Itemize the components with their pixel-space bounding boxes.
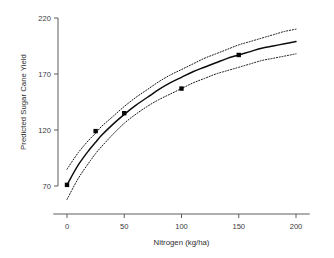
x-axis: 050100150200 (53, 214, 309, 231)
confidence-band-curve (67, 54, 296, 200)
y-tick-label: 170 (38, 70, 51, 79)
series-group (67, 29, 296, 199)
y-tick-label: 120 (38, 126, 51, 135)
x-tick-group: 050100150200 (65, 214, 302, 231)
y-axis-title: Predicted Sugar Cane Yield (19, 54, 28, 150)
x-tick-label: 100 (175, 222, 188, 231)
data-point-marker (122, 111, 126, 115)
fitted-curve (67, 42, 296, 185)
data-point-marker (237, 53, 241, 57)
x-axis-title: Nitrogen (kg/ha) (154, 238, 210, 247)
data-points-group (65, 53, 241, 187)
x-tick-label: 200 (290, 222, 303, 231)
y-tick-label: 70 (43, 182, 51, 191)
x-tick-label: 50 (120, 222, 128, 231)
chart-canvas: 70120170220 050100150200 Nitrogen (kg/ha… (0, 0, 334, 258)
y-tick-group: 70120170220 (38, 14, 58, 191)
sugar-cane-yield-chart: 70120170220 050100150200 Nitrogen (kg/ha… (0, 0, 334, 258)
data-point-marker (93, 129, 97, 133)
confidence-band-curve (67, 29, 296, 169)
y-axis: 70120170220 (38, 14, 58, 191)
x-tick-label: 0 (65, 222, 69, 231)
data-point-marker (65, 183, 69, 187)
x-tick-label: 150 (232, 222, 245, 231)
y-tick-label: 220 (38, 14, 51, 23)
data-point-marker (179, 86, 183, 90)
